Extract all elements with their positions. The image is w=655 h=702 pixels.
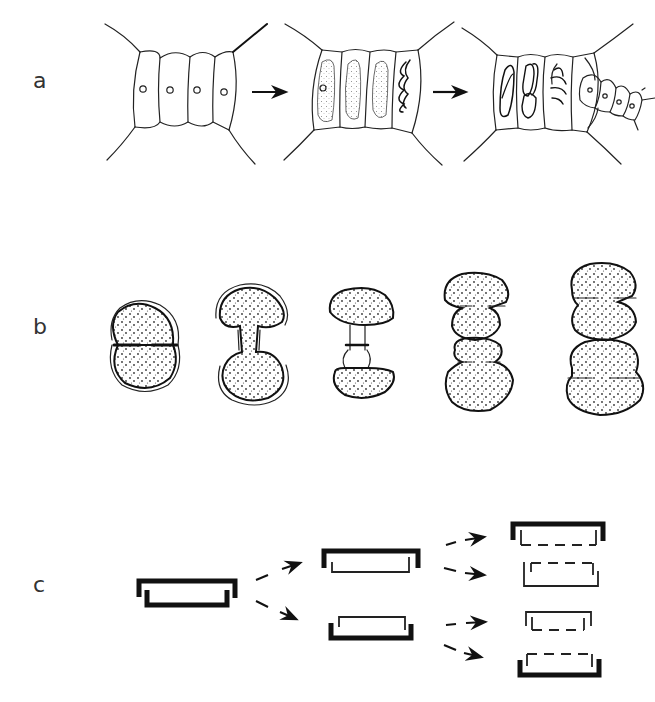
panel-a bbox=[105, 22, 655, 165]
filament-stage-3 bbox=[462, 24, 655, 164]
panel-c bbox=[139, 524, 603, 675]
desmid-stage-1 bbox=[110, 301, 179, 392]
frustule-granddaughter-3 bbox=[526, 612, 591, 630]
frustule-granddaughter-2 bbox=[524, 562, 598, 586]
desmid-stage-2 bbox=[216, 284, 289, 405]
filament-stage-2 bbox=[284, 22, 454, 165]
panel-b bbox=[110, 263, 643, 415]
desmid-stage-5 bbox=[567, 263, 644, 415]
desmid-stage-3 bbox=[330, 288, 394, 398]
granddaughter-arrows bbox=[444, 537, 485, 657]
dashed-arrow-icon bbox=[256, 601, 268, 607]
nucleus-icon bbox=[140, 86, 146, 92]
frustule-granddaughter-4 bbox=[520, 654, 599, 675]
frustule-parent bbox=[139, 581, 235, 605]
dashed-arrow-icon bbox=[282, 563, 300, 569]
frustule-granddaughter-1 bbox=[513, 524, 603, 545]
desmid-stage-4 bbox=[445, 273, 513, 411]
filament-stage-1 bbox=[105, 24, 267, 164]
frustule-daughter-1 bbox=[324, 551, 418, 572]
dashed-arrow-icon bbox=[256, 575, 268, 580]
dashed-arrow-icon bbox=[280, 612, 296, 619]
figure-canvas bbox=[0, 0, 655, 702]
frustule-daughter-2 bbox=[331, 617, 411, 638]
